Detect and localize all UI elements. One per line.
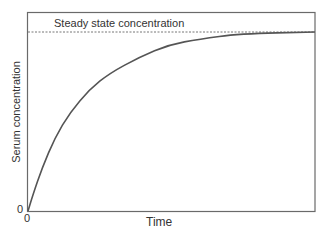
x-axis-label: Time bbox=[146, 215, 172, 229]
concentration-curve bbox=[28, 32, 315, 211]
steady-state-label: Steady state concentration bbox=[54, 17, 184, 29]
x-zero-tick: 0 bbox=[24, 212, 30, 224]
chart-canvas bbox=[0, 0, 323, 234]
y-axis-label: Serum concentration bbox=[10, 61, 22, 163]
y-zero-tick: 0 bbox=[17, 203, 23, 215]
